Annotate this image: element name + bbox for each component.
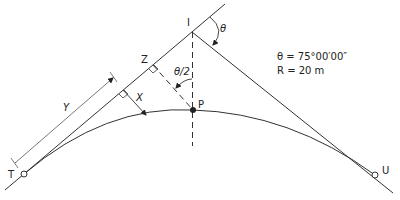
label-i: I xyxy=(187,17,190,28)
y-extension-end xyxy=(110,72,117,82)
label-y: Y xyxy=(63,102,70,113)
circular-curve xyxy=(24,110,375,175)
label-x: X xyxy=(135,92,144,103)
label-z: Z xyxy=(141,54,148,65)
point-t-marker xyxy=(21,171,27,177)
curve-diagram: I Z P T U θ θ/2 X Y θ = 75°00′00″ R = 20… xyxy=(0,0,400,200)
given-theta-value: θ = 75°00′00″ xyxy=(277,51,347,62)
y-dimension-line xyxy=(15,78,113,163)
half-theta-angle-arc xyxy=(176,79,192,88)
label-half-theta: θ/2 xyxy=(174,66,190,77)
theta-angle-arc xyxy=(210,17,219,45)
label-p: P xyxy=(198,99,204,110)
label-u: U xyxy=(382,165,389,176)
point-p-marker xyxy=(190,107,196,113)
y-extension-start xyxy=(11,158,18,168)
point-u-marker xyxy=(372,172,378,178)
given-radius-value: R = 20 m xyxy=(277,65,324,76)
label-t: T xyxy=(7,169,15,180)
label-theta: θ xyxy=(220,23,226,34)
